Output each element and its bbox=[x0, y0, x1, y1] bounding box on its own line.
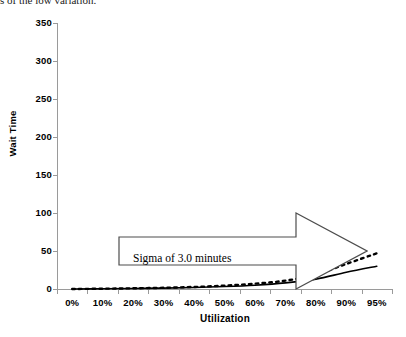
x-tick-label: 95% bbox=[357, 298, 397, 308]
y-axis-title: Wait Time bbox=[7, 94, 18, 174]
y-tick-mark bbox=[53, 137, 57, 138]
y-tick-mark bbox=[53, 23, 57, 24]
x-tick-mark bbox=[392, 289, 393, 294]
x-tick-mark bbox=[57, 289, 58, 294]
y-tick-mark bbox=[53, 175, 57, 176]
sigma-annotation-label: Sigma of 3.0 minutes bbox=[133, 253, 298, 265]
y-tick-label: 50 bbox=[8, 246, 52, 256]
y-tick-label: 300 bbox=[8, 56, 52, 66]
y-tick-label: 0 bbox=[8, 284, 52, 294]
y-tick-label: 350 bbox=[8, 18, 52, 28]
y-axis-line bbox=[57, 23, 58, 289]
y-tick-label: 100 bbox=[8, 208, 52, 218]
y-tick-mark bbox=[53, 61, 57, 62]
wait-time-vs-utilization-chart: 050100150200250300350 0%10%20%30%40%50%6… bbox=[0, 0, 406, 337]
y-tick-mark bbox=[53, 213, 57, 214]
sigma-annotation-arrow bbox=[118, 210, 368, 292]
x-axis-title: Utilization bbox=[57, 313, 393, 324]
y-tick-mark bbox=[53, 99, 57, 100]
y-tick-mark bbox=[53, 251, 57, 252]
x-tick-mark bbox=[87, 289, 88, 294]
